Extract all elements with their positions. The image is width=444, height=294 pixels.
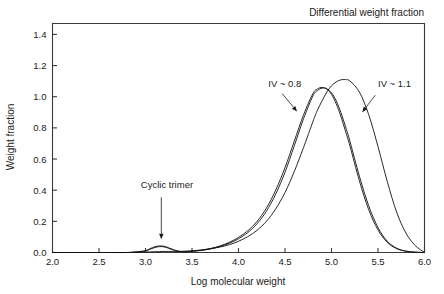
y-tick-label: 0.6 — [33, 154, 46, 165]
chart-figure: 2.02.53.03.54.04.55.05.56.00.00.20.40.60… — [0, 0, 444, 294]
x-axis-label: Log molecular weight — [191, 276, 286, 287]
plot-frame — [53, 24, 425, 253]
x-tick-label: 4.5 — [278, 256, 291, 267]
annotation-label-cyclic-trimer: Cyclic trimer — [141, 179, 193, 190]
curve-iv-0-8-a — [53, 87, 425, 252]
y-tick-label: 0.4 — [33, 185, 46, 196]
y-tick-label: 0.8 — [33, 122, 46, 133]
y-tick-label: 0.0 — [33, 247, 46, 258]
x-tick-label: 5.5 — [371, 256, 384, 267]
plot-border — [53, 24, 425, 253]
x-tick-label: 5.0 — [325, 256, 338, 267]
annotation-label-iv-08: IV ~ 0.8 — [268, 78, 301, 89]
differential-weight-fraction-chart: 2.02.53.03.54.04.55.05.56.00.00.20.40.60… — [0, 0, 444, 294]
y-tick-label: 1.0 — [33, 91, 46, 102]
x-tick-label: 2.0 — [46, 256, 59, 267]
curve-iv-1-1 — [53, 79, 425, 252]
x-tick-label: 4.0 — [232, 256, 245, 267]
y-tick-label: 1.2 — [33, 60, 46, 71]
y-tick-label: 0.2 — [33, 216, 46, 227]
annotation-arrow-iv-08 — [282, 94, 293, 108]
x-tick-label: 3.5 — [185, 256, 198, 267]
chart-title: Differential weight fraction — [309, 7, 424, 18]
annotation-arrowhead-cyclic-trimer — [159, 234, 163, 240]
curve-iv-0-8-b — [53, 88, 425, 252]
x-tick-label: 6.0 — [418, 256, 431, 267]
y-axis-label: Weight fraction — [5, 104, 16, 171]
data-curves — [53, 79, 425, 252]
x-tick-label: 2.5 — [92, 256, 105, 267]
axis-ticks — [53, 34, 425, 252]
y-tick-label: 1.4 — [33, 29, 46, 40]
axis-tick-labels: 2.02.53.03.54.04.55.05.56.00.00.20.40.60… — [33, 29, 431, 267]
x-tick-label: 3.0 — [139, 256, 152, 267]
annotation-label-iv-11: IV ~ 1.1 — [378, 78, 411, 89]
annotation-arrow-iv-11 — [366, 95, 376, 108]
